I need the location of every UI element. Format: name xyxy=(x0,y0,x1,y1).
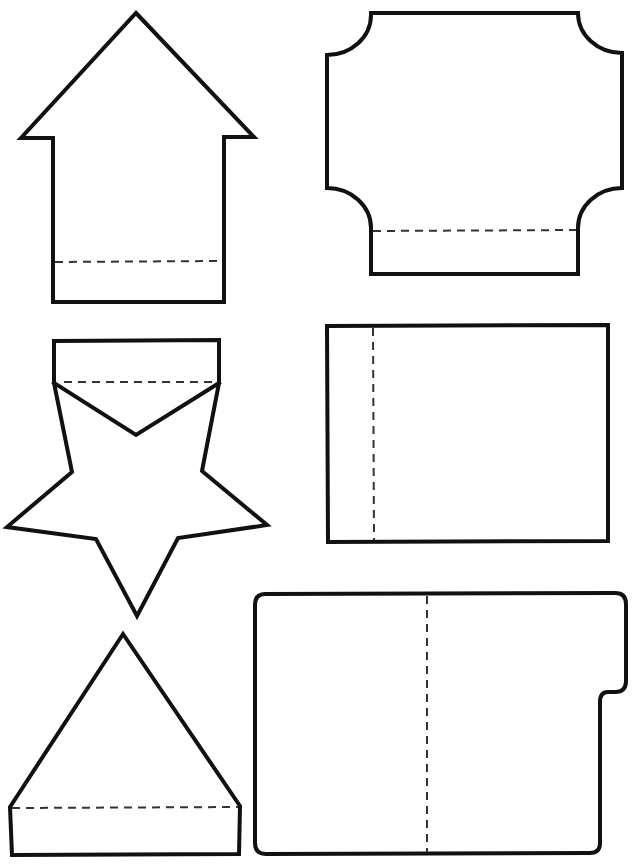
rectangle-outline xyxy=(327,325,608,542)
star-shape: Star with tab xyxy=(7,340,267,616)
scalloped-rectangle-fold-line xyxy=(373,230,576,231)
triangle-outline xyxy=(10,634,240,855)
house-outline xyxy=(21,13,254,302)
rectangle-shape: Rectangle xyxy=(327,325,608,542)
shape-sheet: House shape Scalloped corner rectangle S… xyxy=(0,0,634,865)
house-shape: House shape xyxy=(21,13,254,302)
folder-shape: Folder with tab xyxy=(255,593,626,854)
scalloped-rectangle-shape: Scalloped corner rectangle xyxy=(327,13,622,274)
folder-outline xyxy=(255,593,626,854)
triangle-shape: Triangle with tab xyxy=(10,634,240,855)
scalloped-rectangle-outline xyxy=(327,13,622,274)
